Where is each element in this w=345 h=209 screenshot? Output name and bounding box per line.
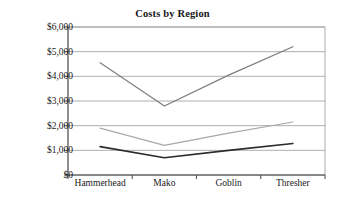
y-axis-label: $1,000 <box>47 145 73 155</box>
x-axis-label-thresher: Thresher <box>276 178 310 188</box>
x-axis-label-hammerhead: Hammerhead <box>75 178 126 188</box>
y-axis-label: $2,000 <box>47 121 73 131</box>
y-axis-label: $0 <box>64 170 74 180</box>
y-axis-label: $4,000 <box>47 71 73 81</box>
y-axis-label: $5,000 <box>47 47 73 57</box>
x-axis-label-mako: Mako <box>153 178 175 188</box>
chart-container: Costs by Region $6,000$5,000$4,000$3,000… <box>0 0 345 209</box>
x-axis-label-goblin: Goblin <box>215 178 241 188</box>
y-axis-label: $6,000 <box>47 22 73 32</box>
y-axis-label: $3,000 <box>47 96 73 106</box>
